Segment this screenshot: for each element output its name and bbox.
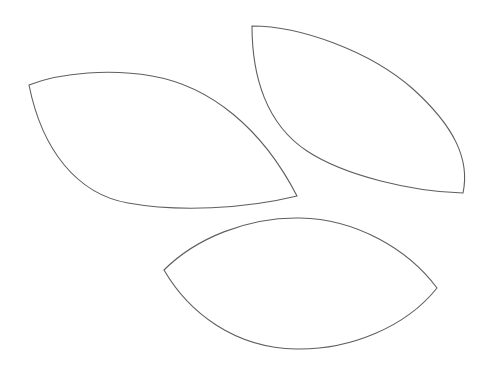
leaf-outlines-svg xyxy=(0,0,490,372)
diagram-canvas xyxy=(0,0,490,372)
